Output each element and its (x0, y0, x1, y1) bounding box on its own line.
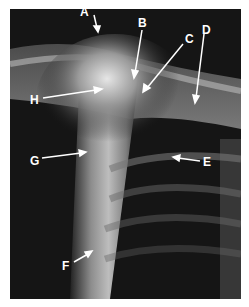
label-c: C (185, 33, 194, 45)
label-e: E (203, 156, 211, 168)
label-d: D (202, 24, 211, 36)
label-g: G (30, 155, 39, 167)
label-h: H (30, 94, 39, 106)
label-b: B (138, 17, 147, 29)
label-a: A (80, 9, 89, 18)
xray-anatomy (10, 9, 241, 299)
xray-image: A B C D H G E F (10, 9, 241, 299)
label-f: F (62, 260, 69, 272)
